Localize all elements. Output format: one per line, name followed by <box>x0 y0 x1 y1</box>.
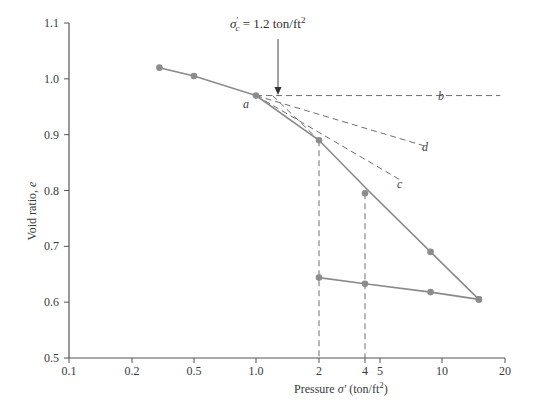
x-tick-label: 10 <box>436 364 448 378</box>
label-point-d: d <box>422 140 429 154</box>
y-axis-title: Void ratio, e <box>25 181 39 240</box>
label-point-a: a <box>243 97 249 111</box>
x-tick-label: 0.1 <box>62 364 77 378</box>
y-tick-label: 0.5 <box>44 351 59 365</box>
y-tick-label: 0.9 <box>44 128 59 142</box>
data-point-marker <box>427 289 434 296</box>
data-point-marker <box>253 92 260 99</box>
y-tick-label: 0.6 <box>44 295 59 309</box>
arrow-down-icon <box>275 39 282 95</box>
data-point-marker <box>316 274 323 281</box>
y-tick-label: 0.8 <box>44 184 59 198</box>
dashed-construction-lines <box>256 96 500 358</box>
x-axis-title: Pressure σ′ (ton/ft2) <box>294 380 388 396</box>
construction-line-c <box>256 96 399 180</box>
x-tick-label: 2 <box>316 364 322 378</box>
data-point-marker <box>191 73 198 80</box>
data-point-marker <box>427 249 434 256</box>
x-tick-label: 0.2 <box>125 364 140 378</box>
preconsolidation-annotation: σ′c = 1.2 ton/ft2 <box>230 15 305 33</box>
x-tick-label: 20 <box>499 364 511 378</box>
data-point-marker <box>156 64 163 71</box>
label-point-b: b <box>438 89 444 103</box>
y-tick-label: 0.7 <box>44 239 59 253</box>
x-tick-label: 5 <box>377 364 383 378</box>
data-point-marker <box>316 137 323 144</box>
construction-line-d <box>256 96 424 146</box>
consolidation-chart: 1.11.00.90.80.70.60.50.10.20.51.02451020… <box>0 0 536 414</box>
y-tick-label: 1.1 <box>44 16 59 30</box>
data-point-marker <box>362 280 369 287</box>
unloading-curve <box>319 278 479 300</box>
y-tick-label: 1.0 <box>44 72 59 86</box>
data-point-marker <box>476 296 483 303</box>
x-tick-label: 1.0 <box>249 364 264 378</box>
data-point-marker <box>362 190 369 197</box>
label-point-c: c <box>397 177 403 191</box>
x-tick-label: 0.5 <box>187 364 202 378</box>
x-tick-label: 4 <box>362 364 368 378</box>
